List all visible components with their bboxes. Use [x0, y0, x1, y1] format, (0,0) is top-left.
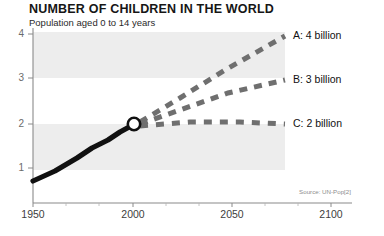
x-tick-label-2000: 2000: [113, 208, 153, 220]
y-tick-label-2: 2: [8, 118, 24, 129]
background-bands: [33, 32, 285, 170]
y-tick-label-1: 1: [8, 162, 24, 173]
chart-container: NUMBER OF CHILDREN IN THE WORLD Populati…: [0, 0, 384, 236]
x-tick-label-1950: 1950: [13, 208, 53, 220]
y-tick-label-4: 4: [8, 28, 24, 39]
source-note: Source: UN-Pop[2]: [299, 188, 351, 195]
pivot-marker-icon: [128, 118, 140, 130]
x-axis-ticks: [33, 203, 331, 207]
y-axis-ticks: [28, 34, 33, 168]
series-label-c: C: 2 billion: [293, 117, 342, 129]
series-label-b: B: 3 billion: [293, 73, 341, 85]
y-tick-label-3: 3: [8, 72, 24, 83]
x-tick-label-2050: 2050: [212, 208, 252, 220]
series-label-a: A: 4 billion: [293, 29, 341, 41]
x-tick-label-2100: 2100: [311, 208, 351, 220]
series-b-projection: [140, 80, 285, 124]
